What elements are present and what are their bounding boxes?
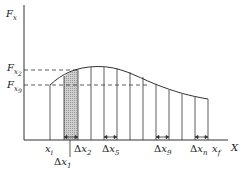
xi-label: xi [45, 144, 53, 158]
dx1-label: Δx1 [54, 157, 71, 170]
dx2-label: Δx2 [74, 144, 91, 158]
dxn-label: Δxn [190, 144, 207, 158]
shaded-strip [64, 69, 78, 140]
y-axis-label: Fx [6, 9, 17, 23]
x-axis-label: X [231, 143, 238, 153]
dx9-label: Δx9 [154, 144, 171, 158]
fx9-label: Fx9 [7, 80, 22, 96]
dx5-label: Δx5 [102, 144, 119, 158]
xf-label: xf [212, 144, 220, 158]
fx2-label: Fx2 [7, 63, 22, 79]
